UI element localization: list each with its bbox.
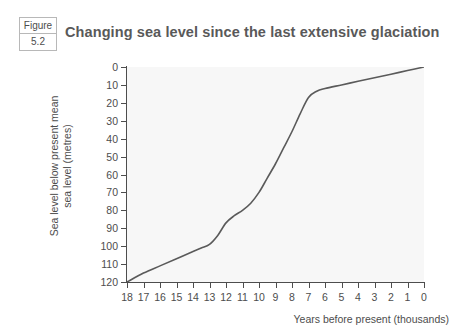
y-tick-mark (121, 282, 126, 283)
y-tick-mark (121, 264, 126, 265)
y-tick-mark (121, 210, 126, 211)
x-tick-mark (408, 283, 409, 288)
x-tick-mark (424, 283, 425, 288)
chart-container: Sea level below present mean sea level (… (0, 0, 460, 336)
x-tick-mark (144, 283, 145, 288)
y-tick-label: 110 (88, 259, 118, 269)
x-tick-mark (226, 283, 227, 288)
x-tick-mark (210, 283, 211, 288)
sea-level-curve (127, 67, 424, 282)
y-axis-tick-labels: 0102030405060708090100110120 (88, 0, 118, 336)
y-tick-mark (121, 103, 126, 104)
x-tick-label: 0 (414, 291, 434, 303)
y-tick-label: 50 (88, 152, 118, 162)
x-tick-mark (177, 283, 178, 288)
x-tick-mark (292, 283, 293, 288)
x-tick-mark (243, 283, 244, 288)
y-tick-mark (121, 85, 126, 86)
x-tick-mark (325, 283, 326, 288)
y-tick-label: 0 (88, 62, 118, 72)
y-tick-label: 90 (88, 223, 118, 233)
x-tick-mark (160, 283, 161, 288)
y-tick-mark (121, 121, 126, 122)
y-tick-mark (121, 246, 126, 247)
sea-level-curve-path (127, 67, 424, 282)
y-tick-mark (121, 175, 126, 176)
y-axis-title-line-1: Sea level below present mean (48, 61, 61, 271)
y-tick-mark (121, 192, 126, 193)
x-tick-mark (342, 283, 343, 288)
x-tick-mark (375, 283, 376, 288)
y-tick-label: 60 (88, 170, 118, 180)
x-tick-mark (127, 283, 128, 288)
x-tick-mark (358, 283, 359, 288)
y-tick-label: 20 (88, 98, 118, 108)
y-tick-mark (121, 157, 126, 158)
x-tick-mark (193, 283, 194, 288)
y-tick-label: 80 (88, 205, 118, 215)
y-tick-label: 30 (88, 116, 118, 126)
x-tick-mark (309, 283, 310, 288)
x-tick-mark (391, 283, 392, 288)
y-tick-label: 70 (88, 187, 118, 197)
y-axis-title: Sea level below present mean sea level (… (48, 61, 74, 271)
x-tick-mark (259, 283, 260, 288)
y-tick-mark (121, 139, 126, 140)
y-tick-mark (121, 228, 126, 229)
y-tick-label: 10 (88, 80, 118, 90)
x-axis-title: Years before present (thousands) (0, 313, 449, 325)
y-axis-title-line-2: sea level (metres) (61, 61, 74, 271)
y-tick-label: 40 (88, 134, 118, 144)
y-tick-label: 120 (88, 277, 118, 287)
x-tick-mark (276, 283, 277, 288)
y-tick-label: 100 (88, 241, 118, 251)
y-tick-mark (121, 67, 126, 68)
figure-page: Figure 5.2 Changing sea level since the … (0, 0, 460, 336)
